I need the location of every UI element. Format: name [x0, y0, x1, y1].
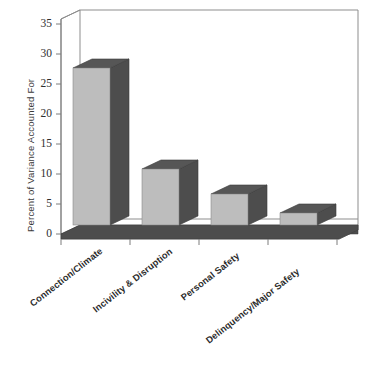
chart-canvas: 35 30 25 20 15 10 5 0 Percent of Varianc… — [0, 0, 372, 367]
y-tick-label-20: 20 — [41, 107, 53, 119]
x-axis-category-labels: Connection/Climate Incivility & Disrupti… — [28, 246, 302, 346]
y-axis: 35 30 25 20 15 10 5 0 — [41, 17, 62, 239]
x-axis — [61, 239, 337, 245]
y-tick-label-15: 15 — [41, 137, 53, 149]
bar-personal-safety[interactable] — [211, 185, 267, 225]
y-tick-label-0: 0 — [46, 227, 52, 239]
y-tick-label-5: 5 — [46, 197, 52, 209]
y-tick-label-10: 10 — [41, 167, 53, 179]
category-label-connection-climate: Connection/Climate — [28, 246, 104, 309]
category-label-personal-safety: Personal Safety — [179, 250, 242, 302]
category-label-delinquency-major-safety: Delinquency/Major Safety — [204, 266, 302, 345]
bar-chart-figure: 35 30 25 20 15 10 5 0 Percent of Varianc… — [0, 0, 372, 367]
bars-group — [73, 59, 336, 225]
y-tick-label-30: 30 — [41, 47, 53, 59]
bar-delinquency-major-safety[interactable] — [280, 204, 336, 225]
bar-connection-climate[interactable] — [73, 59, 129, 225]
y-axis-title: Percent of Variance Accounted For — [25, 79, 36, 232]
y-tick-label-35: 35 — [41, 17, 53, 29]
y-tick-label-25: 25 — [41, 77, 53, 89]
bar-incivility-disruption[interactable] — [142, 160, 198, 225]
floor-plane — [61, 225, 358, 239]
category-label-incivility-disruption: Incivility & Disruption — [91, 246, 174, 314]
